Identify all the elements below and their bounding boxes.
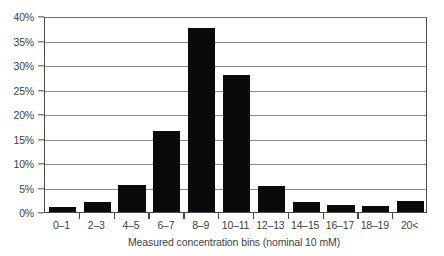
x-tick-label: 4–5 — [123, 219, 140, 231]
y-tick-label: 35% — [14, 36, 34, 48]
x-tick-label: 8–9 — [192, 219, 209, 231]
bar — [84, 202, 111, 212]
bar — [188, 28, 215, 212]
x-tick-label: 12–13 — [256, 219, 284, 231]
y-axis: 0%5%10%15%20%25%30%35%40% — [0, 0, 44, 256]
y-tick-label: 30% — [14, 60, 34, 72]
y-tick-label: 20% — [14, 109, 34, 121]
y-tick-label: 25% — [14, 85, 34, 97]
bar — [118, 185, 145, 212]
y-tick-label: 15% — [14, 134, 34, 146]
x-tick-label: 18–19 — [361, 219, 389, 231]
bars-layer — [45, 17, 426, 212]
y-tick-label: 5% — [19, 183, 34, 195]
bar — [327, 205, 354, 212]
histogram-chart: 0%5%10%15%20%25%30%35%40% 0–12–34–56–78–… — [0, 0, 444, 256]
x-tick-label: 16–17 — [326, 219, 354, 231]
x-axis-title: Measured concentration bins (nominal 10 … — [0, 236, 444, 248]
x-tick-label: 14–15 — [291, 219, 319, 231]
x-tick-label: 10–11 — [222, 219, 249, 231]
bar — [397, 201, 424, 212]
bar — [362, 206, 389, 212]
y-tick-label: 10% — [14, 158, 34, 170]
x-tick-label: 0–1 — [53, 219, 70, 231]
x-axis-labels: 0–12–34–56–78–910–1112–1314–1516–1718–19… — [0, 219, 444, 235]
plot-area — [44, 17, 427, 213]
y-tick-label: 40% — [14, 11, 34, 23]
bar — [258, 186, 285, 212]
x-tick-label: 6–7 — [157, 219, 174, 231]
bar — [49, 207, 76, 212]
bar — [293, 202, 320, 212]
y-tick-label: 0% — [19, 207, 34, 219]
bar — [153, 131, 180, 212]
x-tick-label: 20< — [401, 219, 418, 231]
bar — [223, 75, 250, 212]
x-tick-label: 2–3 — [88, 219, 105, 231]
